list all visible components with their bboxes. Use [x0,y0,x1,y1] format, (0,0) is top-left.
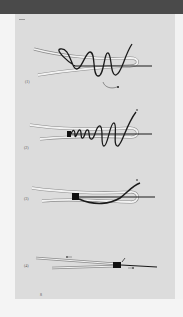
step-1-illustration [34,44,152,88]
page-number: 8 [40,292,42,297]
step-4-label: (4) [24,263,29,268]
step-3-illustration [32,179,155,203]
knot-diagram [0,0,183,317]
step-3-label: (3) [24,196,29,201]
step-4-illustration [36,256,157,269]
step-1-label: (1) [25,79,30,84]
step-2-illustration [30,109,152,146]
step-2-label: (2) [24,145,29,150]
